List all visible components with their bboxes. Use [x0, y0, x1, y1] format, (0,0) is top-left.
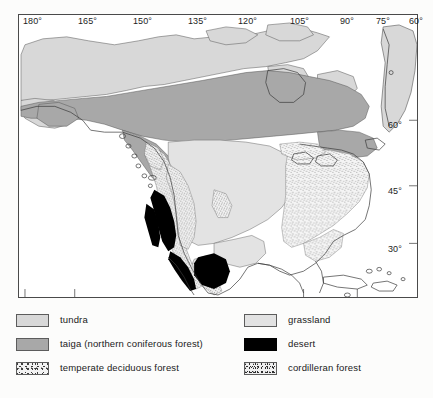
longitude-label: 105° — [290, 16, 309, 26]
latitude-label: 30° — [388, 244, 402, 254]
longitude-label: 90° — [340, 16, 354, 26]
legend-entry: desert — [244, 336, 433, 360]
legend-label: cordilleran forest — [288, 361, 361, 375]
legend-swatch-tundra — [16, 314, 49, 327]
legend-label: desert — [288, 337, 315, 351]
legend-swatch-decid — [16, 362, 49, 375]
map-legend: tundrataiga (northern coniferous forest)… — [16, 312, 420, 386]
legend-column-left: tundrataiga (northern coniferous forest)… — [16, 312, 216, 384]
longitude-label: 135° — [188, 16, 207, 26]
legend-label: grassland — [288, 313, 331, 327]
latitude-label: 60° — [388, 120, 402, 130]
legend-swatch-cordil — [244, 362, 277, 375]
legend-entry: taiga (northern coniferous forest) — [16, 336, 216, 360]
longitude-label: 165° — [78, 16, 97, 26]
latitude-label: 45° — [388, 186, 402, 196]
longitude-label: 150° — [133, 16, 152, 26]
legend-swatch-desert — [244, 338, 277, 351]
legend-label: taiga (northern coniferous forest) — [60, 337, 203, 351]
legend-swatch-grassland — [244, 314, 277, 327]
legend-entry: grassland — [244, 312, 433, 336]
legend-entry: cordilleran forest — [244, 360, 433, 384]
legend-label: temperate deciduous forest — [60, 361, 179, 375]
biome-map-figure: 180°165°150°135°120°105°90°75°60° 60°45°… — [0, 0, 433, 398]
legend-column-right: grasslanddesertcordilleran forest — [244, 312, 433, 384]
legend-entry: tundra — [16, 312, 216, 336]
longitude-label: 180° — [23, 16, 42, 26]
longitude-label: 120° — [238, 16, 257, 26]
legend-swatch-taiga — [16, 338, 49, 351]
legend-entry: temperate deciduous forest — [16, 360, 216, 384]
longitude-label: 60° — [409, 16, 423, 26]
map-graphic — [19, 15, 417, 297]
map-panel — [18, 14, 418, 298]
legend-label: tundra — [60, 313, 88, 327]
longitude-label: 75° — [376, 16, 390, 26]
